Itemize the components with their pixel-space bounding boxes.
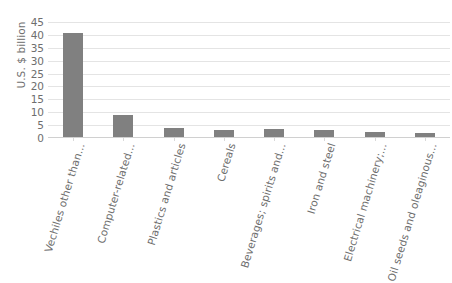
- y-axis-tick-label: 45: [18, 17, 44, 27]
- gridline: [48, 22, 450, 23]
- gridline: [48, 86, 450, 87]
- x-axis-tickmark: [375, 138, 376, 141]
- y-axis-tick-label: 40: [18, 30, 44, 40]
- y-axis-tick-label: 10: [18, 107, 44, 117]
- y-axis-tick-label: 5: [18, 120, 44, 130]
- x-axis-tickmark: [425, 138, 426, 141]
- x-axis-tick-label-text: Computer-related...: [95, 141, 137, 244]
- y-axis-tick-label: 35: [18, 43, 44, 53]
- x-axis-tick-label-text: Vechiles other than...: [42, 141, 87, 253]
- gridline: [48, 99, 450, 100]
- x-axis-tick-labels: Vechiles other than...Computer-related..…: [48, 142, 450, 282]
- y-axis-tick-label: 15: [18, 94, 44, 104]
- y-axis-tick-label: 25: [18, 69, 44, 79]
- x-axis-tick-label-text: Electrical machinery;...: [341, 141, 388, 262]
- x-axis-tick-label-text: Cereals: [214, 141, 237, 183]
- x-axis-tickmark: [274, 138, 275, 141]
- y-axis-tick-label: 0: [18, 133, 44, 143]
- x-axis-tick-label-text: Iron and steel: [305, 141, 338, 215]
- bar: [63, 33, 83, 137]
- x-axis-tickmark: [224, 138, 225, 141]
- x-axis-tick-label-text: Oil seeds and oleaginous...: [385, 141, 439, 282]
- x-axis-tickmark: [174, 138, 175, 141]
- x-axis-tick-label-text: Beverages; spirits and...: [238, 141, 287, 269]
- bar-chart: U.S. $ billion 051015202530354045 Vechil…: [0, 0, 452, 283]
- y-axis-tick-labels: 051015202530354045: [18, 15, 44, 140]
- x-axis-tickmark: [73, 138, 74, 141]
- y-axis-tick-label: 20: [18, 81, 44, 91]
- x-axis-tick-label-text: Plastics and articles: [145, 141, 188, 246]
- y-axis-tick-label: 30: [18, 56, 44, 66]
